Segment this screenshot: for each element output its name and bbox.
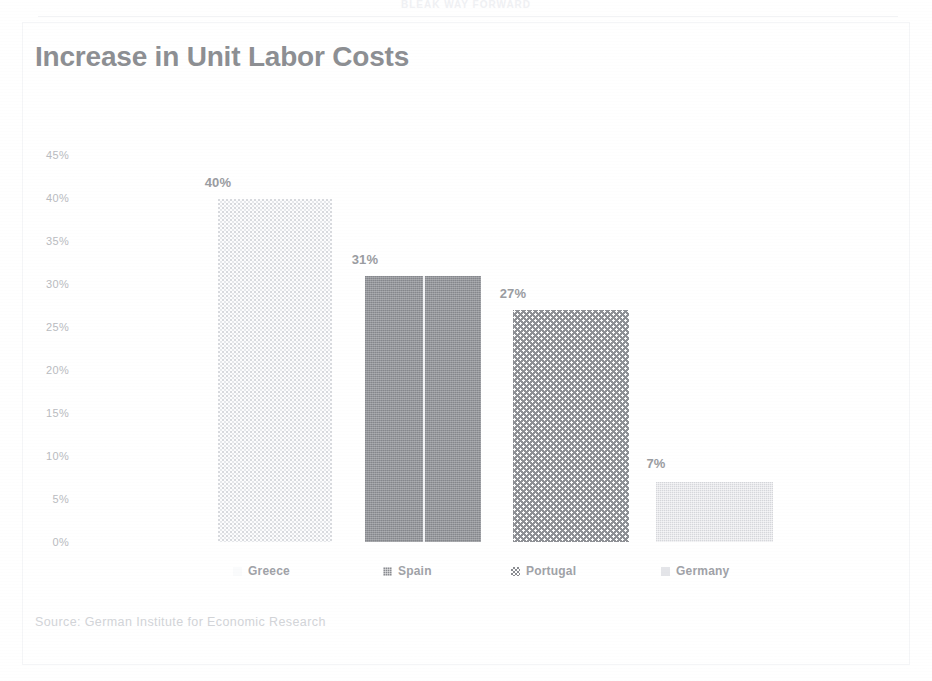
legend-item-germany[interactable]: Germany	[661, 561, 729, 581]
legend-item-portugal[interactable]: Portugal	[511, 561, 576, 581]
bar-fill-portugal	[513, 310, 629, 542]
legend-label-greece: Greece	[248, 564, 290, 578]
y-axis-tick-40: 40%	[23, 192, 69, 204]
page-header-text: BLEAK WAY FORWARD	[0, 0, 932, 14]
legend-swatch-greece-icon	[233, 567, 242, 576]
plot-area: 45% 40% 35% 30% 25% 20% 15% 10% 5% 0% 40…	[23, 23, 911, 666]
y-axis-tick-10: 10%	[23, 450, 69, 462]
legend-item-spain[interactable]: Spain	[383, 561, 432, 581]
header-rule	[38, 16, 898, 17]
y-axis-tick-0: 0%	[23, 536, 69, 548]
bar-greece[interactable]	[218, 199, 332, 542]
bar-value-label-spain: 31%	[295, 252, 435, 267]
legend-swatch-spain-icon	[383, 567, 392, 576]
legend-swatch-portugal-icon	[511, 567, 520, 576]
y-axis-tick-35: 35%	[23, 235, 69, 247]
y-axis-tick-15: 15%	[23, 407, 69, 419]
bar-spain[interactable]	[365, 276, 481, 542]
bar-value-label-portugal: 27%	[443, 286, 583, 301]
bar-portugal[interactable]	[513, 310, 629, 542]
legend-label-spain: Spain	[398, 564, 432, 578]
bar-fill-greece	[218, 199, 332, 542]
legend-label-portugal: Portugal	[526, 564, 576, 578]
y-axis-tick-45: 45%	[23, 149, 69, 161]
legend-label-germany: Germany	[676, 564, 729, 578]
y-axis-tick-25: 25%	[23, 321, 69, 333]
bar-divider-spain	[423, 276, 425, 542]
legend-swatch-germany-icon	[661, 567, 670, 576]
source-note: Source: German Institute for Economic Re…	[35, 615, 326, 629]
y-axis-tick-5: 5%	[23, 493, 69, 505]
y-axis-tick-20: 20%	[23, 364, 69, 376]
y-axis-tick-30: 30%	[23, 278, 69, 290]
legend-item-greece[interactable]: Greece	[233, 561, 290, 581]
bar-germany[interactable]	[656, 482, 773, 542]
bar-fill-spain	[365, 276, 481, 542]
bar-fill-germany	[656, 482, 773, 542]
chart-card: Increase in Unit Labor Costs 45% 40% 35%…	[22, 22, 910, 665]
bar-value-label-germany: 7%	[586, 456, 726, 471]
chart-legend: Greece Spain Portugal Germany	[23, 561, 911, 587]
bar-value-label-greece: 40%	[148, 175, 288, 190]
